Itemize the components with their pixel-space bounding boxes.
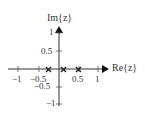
x-tick-label: −1 [12, 75, 22, 84]
y-tick-label: −1 [46, 99, 56, 108]
imag-axis-arrow-icon [55, 26, 63, 33]
x-tick-label: 1 [95, 75, 100, 84]
x-tick-label: 0.5 [72, 75, 83, 84]
y-tick-label: 1 [49, 28, 54, 37]
real-axis-arrow-icon [102, 65, 109, 73]
y-tick-label: 0.5 [41, 47, 52, 56]
y-axis-label: Im{z} [47, 13, 72, 23]
y-tick-label: −0.5 [34, 82, 50, 91]
x-axis-label: Re{z} [112, 63, 137, 73]
pole-zero-plot [0, 0, 145, 119]
